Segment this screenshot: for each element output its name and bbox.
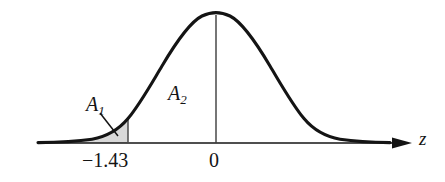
normal-curve-figure: A1 A2 −1.43 0 z	[0, 0, 445, 182]
tick-label-minus-1-43: −1.43	[82, 150, 128, 170]
tick-label-zero: 0	[209, 150, 219, 170]
area-label-a2: A2	[168, 83, 187, 106]
axis-label-z: z	[419, 129, 426, 148]
figure-canvas	[0, 0, 445, 182]
area-label-a1-subscript: 1	[98, 103, 105, 118]
area-label-a1-base: A	[86, 93, 98, 115]
axis-arrowhead-icon	[392, 137, 412, 148]
area-label-a2-base: A	[168, 82, 180, 104]
normal-curve-path	[38, 13, 390, 143]
area-label-a1: A1	[86, 94, 105, 117]
area-label-a2-subscript: 2	[180, 92, 187, 107]
